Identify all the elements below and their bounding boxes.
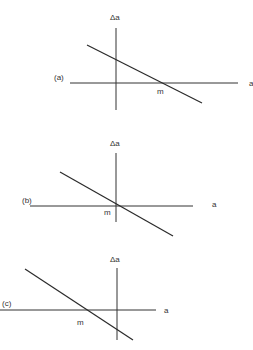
panel-c: Δa a (c) m (0, 255, 169, 340)
x-axis-label: a (164, 306, 169, 315)
panel-label: (b) (22, 196, 32, 205)
y-axis-label: Δa (110, 139, 120, 148)
diagram-canvas: Δa a (a) m Δa a (b) m Δa a (c) m (0, 0, 253, 350)
panel-b: Δa a (b) m (22, 139, 217, 236)
x-axis-label: a (212, 200, 217, 209)
point-m-label: m (104, 208, 111, 217)
panel-label: (a) (54, 73, 64, 82)
panel-a: Δa a (a) m (54, 13, 253, 110)
point-m-label: m (77, 318, 84, 327)
x-axis-label: a (249, 79, 253, 88)
y-axis-label: Δa (110, 255, 120, 264)
point-m-label: m (157, 87, 164, 96)
panel-label: (c) (2, 299, 12, 308)
y-axis-label: Δa (110, 13, 120, 22)
regression-line (87, 45, 202, 103)
